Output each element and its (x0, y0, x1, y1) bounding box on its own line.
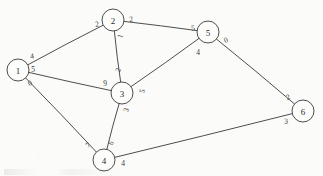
node-label-5: 5 (206, 28, 211, 38)
node-label-4: 4 (102, 156, 107, 166)
edges-layer (26, 21, 295, 157)
edge-weight-2-5-target: 5 (191, 23, 196, 32)
graph-node-1[interactable]: 1 (7, 59, 29, 81)
graph-edge-1-2 (28, 25, 104, 65)
graph-edge-3-5 (131, 38, 199, 86)
edge-weight-5-6-source: 0 (223, 35, 230, 45)
node-label-6: 6 (301, 107, 306, 117)
graph-node-4[interactable]: 4 (93, 149, 115, 171)
edge-weight-2-3-target: 2 (113, 66, 123, 73)
edge-weight-2-5-source: 2 (129, 14, 134, 23)
edge-weight-5-6-target: 2 (285, 92, 292, 102)
edge-weights-layer: 425907122554364302 (27, 14, 292, 167)
edge-weight-1-3-target: 9 (103, 79, 107, 88)
graph-edge-1-3 (29, 72, 112, 90)
edge-weight-3-5-target: 4 (196, 48, 200, 57)
node-label-1: 1 (16, 66, 21, 76)
graph-node-6[interactable]: 6 (292, 100, 314, 122)
graph-edge-4-6 (115, 114, 293, 158)
edge-weight-1-4-source: 0 (27, 78, 34, 88)
edge-weight-1-2-target: 2 (95, 19, 100, 28)
edge-weight-3-5-source: 5 (137, 88, 147, 94)
edge-weight-4-6-target: 3 (284, 116, 289, 125)
graph-edge-5-6 (216, 39, 294, 104)
graph-canvas: 123456 425907122554364302 (0, 0, 323, 176)
graph-node-5[interactable]: 5 (197, 21, 219, 43)
edge-weight-2-3-source: 1 (115, 33, 125, 39)
graph-node-3[interactable]: 3 (111, 82, 133, 104)
edge-weight-4-6-source: 4 (121, 159, 125, 168)
edge-weight-3-4-source: 3 (121, 106, 131, 113)
graph-edge-2-5 (124, 21, 197, 30)
node-label-3: 3 (120, 89, 125, 99)
edge-weight-1-3-source: 5 (31, 65, 35, 74)
graph-node-2[interactable]: 2 (102, 9, 124, 31)
edge-weight-1-2-source: 4 (30, 51, 35, 60)
graph-figure: 123456 425907122554364302 (0, 0, 323, 176)
node-label-2: 2 (111, 16, 116, 26)
edge-weight-1-4-target: 7 (84, 140, 93, 149)
